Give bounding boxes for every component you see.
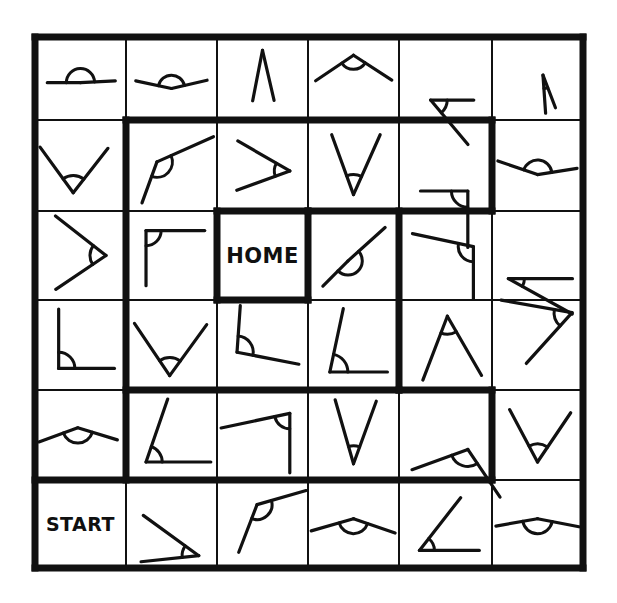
ray-a <box>136 81 172 89</box>
angle-figure-r5-c5 <box>496 519 579 534</box>
angle-arc <box>90 246 93 265</box>
angle-figure-r4-c5 <box>510 410 571 462</box>
angle-arc <box>441 100 447 113</box>
ray-b <box>237 171 290 190</box>
angle-figure-r0-c1 <box>136 75 207 88</box>
angle-arc <box>334 354 348 372</box>
ray-a <box>253 50 263 101</box>
angle-figure-r0-c2 <box>253 50 274 101</box>
angle-arc <box>347 175 362 177</box>
ray-b <box>354 401 377 464</box>
angle-figure-r3-c0 <box>59 309 115 368</box>
angle-arc <box>529 444 548 447</box>
angle-figure-r5-c2 <box>239 491 306 553</box>
ray-a <box>142 162 157 203</box>
worksheet-sheet: HOMESTART <box>0 0 617 603</box>
ray-a <box>498 161 538 175</box>
angle-figure-r3-c1 <box>134 323 206 375</box>
angle-arc <box>544 88 548 89</box>
angle-arc <box>275 417 290 429</box>
angle-figure-r2-c5 <box>508 279 572 314</box>
angle-figure-r5-c1 <box>141 515 199 561</box>
angle-arc <box>63 432 92 443</box>
ray-a <box>423 316 448 380</box>
ray-a <box>335 400 353 464</box>
ray-a <box>39 428 78 442</box>
angle-figure-r1-c0 <box>40 147 108 193</box>
angle-figure-r0-c3 <box>316 55 392 81</box>
angle-arc <box>523 521 552 533</box>
angle-figure-r4-c3 <box>335 400 376 464</box>
ray-a <box>412 449 468 469</box>
ray-b <box>526 313 572 364</box>
angle-arc <box>151 447 162 462</box>
ray-b <box>419 498 460 551</box>
angle-arc <box>338 251 362 275</box>
angle-figure-r3-c2 <box>237 306 299 365</box>
ray-b <box>508 279 572 314</box>
ray-b <box>330 309 343 372</box>
angle-arc <box>451 191 467 207</box>
ray-a <box>134 323 169 375</box>
angle-arc <box>554 309 560 326</box>
angle-figure-r3-c3 <box>330 309 388 372</box>
ray-b <box>157 137 214 162</box>
ray-b <box>73 148 108 192</box>
ray-b <box>538 413 571 462</box>
ray-b <box>354 135 381 195</box>
ray-a <box>412 234 473 247</box>
ray-a <box>143 515 199 555</box>
ray-b <box>81 81 116 83</box>
angle-figure-r4-c2 <box>221 413 290 472</box>
angle-figure-r3-c5 <box>501 300 572 363</box>
angle-figure-r2-c4 <box>412 234 473 299</box>
angle-figure-r0-c5 <box>543 75 555 113</box>
ray-b <box>56 256 106 290</box>
angle-figure-r0-c0 <box>47 69 115 83</box>
ray-b <box>141 556 199 562</box>
angle-figure-r1-c2 <box>237 141 290 190</box>
ray-a <box>239 505 257 553</box>
ray-a <box>238 141 290 171</box>
angle-figure-r2-c0 <box>55 216 105 289</box>
angle-arc <box>274 163 276 176</box>
angle-figure-r2-c1 <box>146 231 205 286</box>
ray-a <box>510 410 538 462</box>
angle-arc <box>160 358 181 361</box>
angle-arc <box>441 332 456 334</box>
angle-figure-r2-c3 <box>323 227 385 286</box>
angle-arc <box>429 539 435 551</box>
angle-arc <box>339 523 368 534</box>
ray-b <box>257 491 306 505</box>
ray-a <box>237 352 299 364</box>
ray-b <box>447 316 481 375</box>
angle-arc <box>59 352 75 368</box>
ray-a <box>496 519 538 526</box>
angle-figure-r1-c5 <box>498 160 577 175</box>
ray-b <box>170 325 207 376</box>
angle-figure-r4-c0 <box>39 428 117 443</box>
ray-a <box>311 519 353 531</box>
angle-figure-r4-c1 <box>146 399 211 462</box>
ray-b <box>237 306 240 353</box>
ray-a <box>40 147 73 193</box>
ray-b <box>538 519 579 527</box>
ray-b <box>172 80 208 88</box>
angle-figure-r3-c4 <box>423 316 482 380</box>
angle-figure-r1-c3 <box>332 135 380 195</box>
angle-figure-r5-c4 <box>419 498 479 551</box>
angle-figure-r4-c4 <box>412 449 500 497</box>
ray-b <box>146 399 168 462</box>
angle-figure-r5-c3 <box>311 519 395 534</box>
angle-arc <box>146 231 161 246</box>
ray-b <box>348 227 385 260</box>
angle-arc <box>159 75 185 86</box>
ray-b <box>538 168 578 174</box>
angle-arc <box>342 63 366 69</box>
ray-b <box>263 50 275 100</box>
ray-a <box>332 135 354 195</box>
ray-a <box>55 216 105 255</box>
angle-arc <box>63 176 84 180</box>
angle-figure-r1-c1 <box>142 137 213 203</box>
ray-b <box>78 428 118 440</box>
